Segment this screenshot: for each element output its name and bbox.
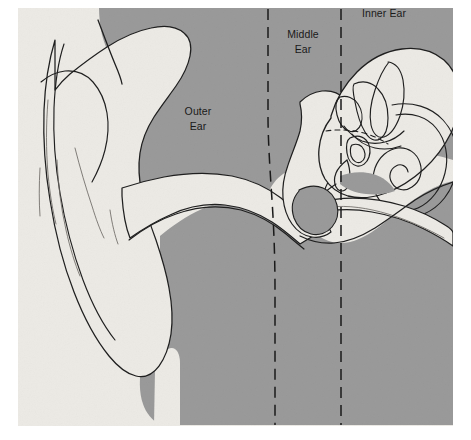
ear-diagram-canvas: Outer Ear Middle Ear Inner Ear: [0, 0, 471, 440]
diagram-content: [18, 8, 459, 426]
label-inner-ear: Inner Ear: [362, 7, 406, 19]
label-middle-ear-line1: Middle: [287, 28, 319, 40]
label-outer-ear-line1: Outer: [185, 105, 212, 117]
label-middle-ear-line2: Ear: [295, 43, 312, 55]
ear-anatomy-figure: Outer Ear Middle Ear Inner Ear: [0, 0, 471, 440]
paper-grain-overlay: [18, 8, 453, 426]
label-outer-ear-line2: Ear: [190, 120, 207, 132]
